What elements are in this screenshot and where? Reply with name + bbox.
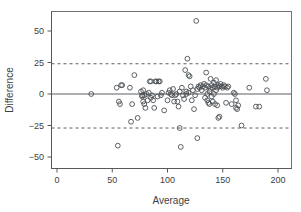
x-tick-label: 50 bbox=[107, 175, 117, 185]
chart-background bbox=[0, 0, 301, 212]
y-tick-label: −25 bbox=[29, 121, 44, 131]
scatter-plot-canvas: 050100150200 −50−2502550 Average Differe… bbox=[0, 0, 301, 212]
x-axis-title: Average bbox=[152, 195, 190, 206]
x-tick-label: 200 bbox=[270, 175, 285, 185]
y-tick-label: 0 bbox=[39, 89, 44, 99]
y-tick-label: −50 bbox=[29, 152, 44, 162]
y-tick-label: 25 bbox=[34, 58, 44, 68]
x-tick-label: 100 bbox=[160, 175, 175, 185]
x-tick-label: 0 bbox=[54, 175, 59, 185]
bland-altman-chart: 050100150200 −50−2502550 Average Differe… bbox=[0, 0, 301, 212]
y-tick-label: 50 bbox=[34, 26, 44, 36]
x-tick-label: 150 bbox=[215, 175, 230, 185]
y-axis-title: Difference bbox=[4, 67, 15, 113]
